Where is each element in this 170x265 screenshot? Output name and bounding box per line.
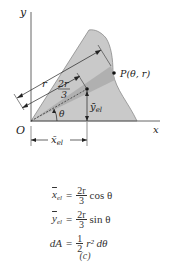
y-el-subscript: el (96, 106, 102, 114)
x-el-subscript: el (57, 139, 63, 147)
x-el-label: x̄el (51, 134, 63, 147)
point-p-label: P(θ, r) (119, 68, 150, 79)
eq-x-fraction: 2r3 (76, 186, 86, 205)
eq-x-rest: cos θ (90, 189, 113, 201)
equals-sign: = (66, 237, 72, 249)
x-axis-label: x (153, 124, 159, 135)
polar-area-diagram: y x O P(θ, r) r 2r 3 θ ȳel x̄el (0, 0, 170, 180)
equation-y-el: yel = 2r3 sin θ (0, 207, 170, 231)
eq-y-fraction: 2r3 (76, 210, 86, 229)
equals-sign: = (66, 213, 72, 225)
two-r-denominator: 3 (61, 89, 67, 100)
figure-caption: (c) (0, 250, 170, 261)
y-axis-label: y (19, 6, 27, 19)
x-el-arrow-right (82, 138, 87, 142)
x-el-arrow-left (31, 138, 36, 142)
two-r-numerator: 2r (57, 78, 70, 89)
point-p (112, 71, 116, 75)
eq-dA-rest: r² dθ (86, 237, 107, 249)
equations-block: xel = 2r3 cos θ yel = 2r3 sin θ dA = 12 … (0, 183, 170, 255)
eq-dA-lhs: dA (40, 237, 62, 249)
two-r-third-arrow-start (22, 103, 28, 108)
eq-y-lhs-sub: el (57, 218, 62, 226)
equals-sign: = (66, 189, 72, 201)
theta-label: θ (59, 109, 65, 119)
equation-x-el: xel = 2r3 cos θ (0, 183, 170, 207)
eq-x-lhs-sub: el (57, 194, 62, 202)
r-arrow-start (17, 93, 23, 98)
origin-label: O (16, 124, 25, 137)
r-label: r (42, 78, 48, 89)
eq-y-rest: sin θ (90, 213, 111, 225)
